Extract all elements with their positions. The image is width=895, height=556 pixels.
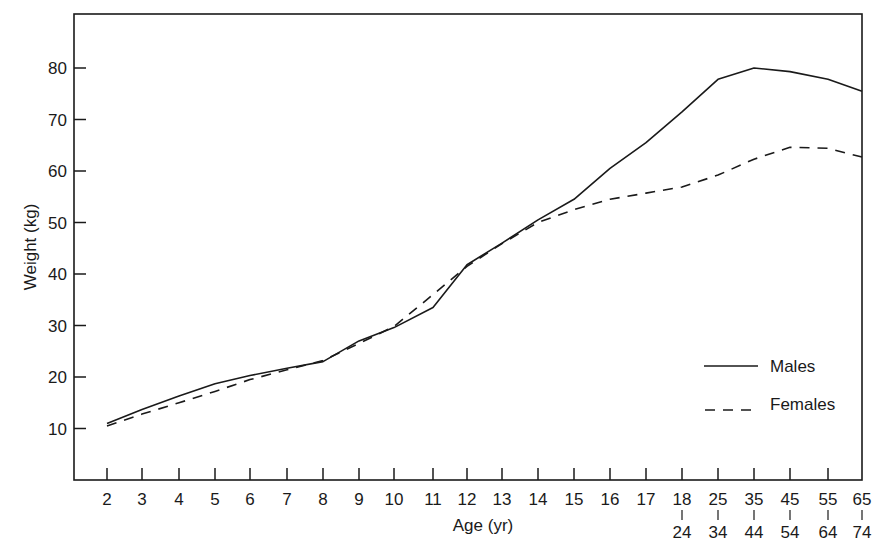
x-tick-label-range-end: 64 <box>819 523 838 542</box>
x-tick-label: 45 <box>781 490 800 509</box>
x-tick-label: 18 <box>673 490 692 509</box>
legend-males-label: Males <box>770 357 815 376</box>
x-tick-label-range-end: 44 <box>745 523 764 542</box>
x-tick-label: 7 <box>282 490 291 509</box>
x-tick-label: 5 <box>210 490 219 509</box>
y-tick-label: 30 <box>48 317 67 336</box>
x-tick-label: 6 <box>245 490 254 509</box>
x-tick-label: 8 <box>318 490 327 509</box>
x-tick-label: 55 <box>819 490 838 509</box>
x-tick-label: 16 <box>601 490 620 509</box>
x-tick-label-range-end: 74 <box>853 523 872 542</box>
x-tick-label: 11 <box>424 490 442 509</box>
y-tick-label: 10 <box>48 420 67 439</box>
y-tick-label: 60 <box>48 162 67 181</box>
x-tick-label: 12 <box>458 490 477 509</box>
y-tick-label: 40 <box>48 265 67 284</box>
x-tick-label-range-end: 54 <box>781 523 800 542</box>
x-tick-label: 25 <box>709 490 728 509</box>
y-tick-label: 50 <box>48 214 67 233</box>
x-tick-label: 3 <box>137 490 146 509</box>
y-tick-label: 20 <box>48 368 67 387</box>
series-line-males <box>107 68 862 423</box>
x-tick-label: 2 <box>102 490 111 509</box>
x-tick-label: 17 <box>637 490 656 509</box>
x-tick-label: 13 <box>493 490 512 509</box>
x-tick-label: 65 <box>853 490 872 509</box>
series-layer <box>107 68 862 426</box>
x-tick-label: 10 <box>385 490 404 509</box>
x-tick-label: 4 <box>174 490 183 509</box>
x-tick-label: 35 <box>745 490 764 509</box>
y-tick-label: 80 <box>48 59 67 78</box>
y-tick-label: 70 <box>48 111 67 130</box>
x-tick-label-range-end: 34 <box>709 523 728 542</box>
x-tick-label: 15 <box>565 490 584 509</box>
x-tick-label: 14 <box>529 490 548 509</box>
x-tick-label-range-end: 24 <box>673 523 692 542</box>
legend-females-label: Females <box>770 395 835 414</box>
y-axis: 1020304050607080 <box>48 59 86 439</box>
weight-by-age-chart: 1020304050607080 23456789101112131415161… <box>0 0 895 556</box>
legend: Males Females <box>704 357 835 414</box>
series-line-females <box>107 147 862 426</box>
x-axis-title: Age (yr) <box>453 516 513 535</box>
x-tick-label: 9 <box>354 490 363 509</box>
y-axis-title: Weight (kg) <box>21 204 40 291</box>
